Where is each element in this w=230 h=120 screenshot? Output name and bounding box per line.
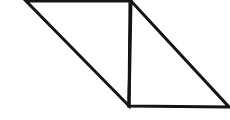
figure-canvas [0, 0, 230, 120]
geometry-figure [0, 0, 230, 120]
vertical-divider-line [129, 1, 130, 106]
